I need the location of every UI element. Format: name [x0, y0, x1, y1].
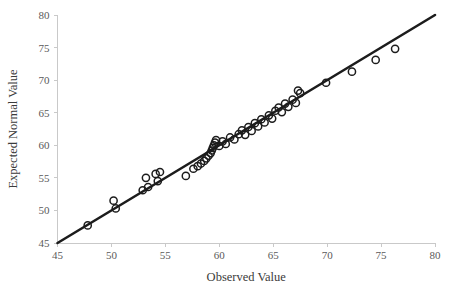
qq-plot-figure: 4550556065707580 4550556065707580 Observ… [0, 0, 462, 298]
data-point-marker [110, 197, 117, 204]
y-tick-labels: 4550556065707580 [39, 9, 51, 249]
x-tick-label: 65 [268, 249, 280, 261]
x-tick-label: 80 [430, 249, 442, 261]
x-tick-label: 55 [160, 249, 172, 261]
y-tick-label: 80 [39, 9, 51, 21]
y-tick-label: 70 [39, 74, 51, 86]
data-point-marker [391, 45, 398, 52]
data-point-marker [156, 168, 163, 175]
x-tick-labels: 4550556065707580 [52, 249, 441, 261]
y-tick-label: 60 [39, 139, 51, 151]
data-point-markers [84, 45, 399, 229]
y-tick-label: 45 [39, 237, 51, 249]
data-point-marker [348, 68, 355, 75]
data-point-marker [152, 170, 159, 177]
y-tick-label: 65 [39, 107, 51, 119]
y-axis-title: Expected Normal Value [6, 69, 20, 189]
x-tick-label: 75 [376, 249, 388, 261]
x-tick-label: 45 [52, 249, 64, 261]
data-point-marker [372, 56, 379, 63]
x-axis-title: Observed Value [207, 270, 287, 284]
y-tick-label: 55 [39, 172, 51, 184]
plot-canvas: 4550556065707580 4550556065707580 Observ… [0, 0, 462, 298]
y-tick-label: 50 [39, 204, 51, 216]
x-tick-label: 50 [106, 249, 118, 261]
data-point-marker [142, 174, 149, 181]
x-tick-label: 60 [214, 249, 226, 261]
data-point-marker [182, 172, 189, 179]
x-tick-label: 70 [322, 249, 334, 261]
y-tick-label: 75 [39, 42, 51, 54]
